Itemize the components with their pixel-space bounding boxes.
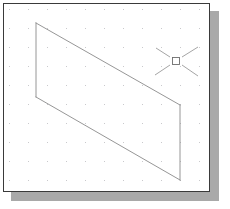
grid-dot — [9, 104, 10, 105]
grid-dot — [123, 9, 124, 10]
grid-dot — [9, 47, 10, 48]
grid-dot — [104, 9, 105, 10]
grid-dot — [199, 142, 200, 143]
grid-dot — [47, 47, 48, 48]
grid-dot — [28, 123, 29, 124]
grid-dot — [180, 66, 181, 67]
grid-dot — [66, 123, 67, 124]
grid-dot — [142, 85, 143, 86]
grid-dot — [47, 180, 48, 181]
grid-dot — [142, 28, 143, 29]
grid-dot — [66, 28, 67, 29]
grid-dot — [66, 161, 67, 162]
grid-dot — [142, 66, 143, 67]
grid-dot — [161, 142, 162, 143]
grid-dot — [104, 161, 105, 162]
grid-dot — [9, 180, 10, 181]
grid-dot — [199, 85, 200, 86]
grid-dot — [161, 47, 162, 48]
grid-dot — [85, 123, 86, 124]
grid-dot — [66, 9, 67, 10]
grid-dot — [66, 66, 67, 67]
grid-dot — [123, 142, 124, 143]
drawing-canvas[interactable] — [4, 4, 209, 191]
cursor-arm-upper-right — [182, 47, 198, 57]
grid-dot — [28, 85, 29, 86]
grid-dot — [199, 9, 200, 10]
shape-layer[interactable] — [36, 23, 180, 180]
grid-dot — [199, 104, 200, 105]
grid-dot — [28, 28, 29, 29]
grid-dot — [9, 142, 10, 143]
grid-dot — [161, 66, 162, 67]
grid-dot — [28, 180, 29, 181]
grid-dot — [66, 180, 67, 181]
grid-dot — [161, 9, 162, 10]
grid-dot — [28, 104, 29, 105]
grid-dot — [199, 28, 200, 29]
grid-dot — [28, 9, 29, 10]
cursor-arm-lower-right — [182, 65, 198, 76]
grid-dot — [199, 47, 200, 48]
grid-dot — [9, 161, 10, 162]
grid-dot — [85, 85, 86, 86]
grid-dot — [142, 142, 143, 143]
bottom-edge[interactable] — [36, 97, 180, 180]
grid-dot — [123, 47, 124, 48]
grid-dot — [199, 66, 200, 67]
grid-dot — [161, 28, 162, 29]
grid-dot — [104, 142, 105, 143]
grid-dot — [104, 28, 105, 29]
grid-dot — [161, 123, 162, 124]
grid-dot — [180, 28, 181, 29]
grid-dot — [180, 85, 181, 86]
canvas-svg[interactable] — [4, 4, 209, 191]
cad-drawing-screen — [0, 0, 230, 209]
top-edge[interactable] — [36, 23, 180, 105]
grid-dot — [28, 161, 29, 162]
grid-dot — [9, 85, 10, 86]
grid-dot — [9, 66, 10, 67]
grid-dot — [47, 66, 48, 67]
grid-dot — [123, 161, 124, 162]
grid-dot — [85, 161, 86, 162]
grid-dot — [142, 161, 143, 162]
grid-dot — [104, 47, 105, 48]
grid-dot — [104, 123, 105, 124]
grid-dot — [180, 47, 181, 48]
grid-dot — [180, 9, 181, 10]
grid-dot — [104, 85, 105, 86]
grid-dot — [9, 123, 10, 124]
grid-dot — [161, 161, 162, 162]
grid-dot — [142, 9, 143, 10]
grid-dot — [142, 104, 143, 105]
grid-dot-layer — [9, 9, 200, 181]
grid-dot — [66, 85, 67, 86]
grid-dot — [161, 85, 162, 86]
cursor-arm-upper-left — [156, 48, 170, 57]
grid-dot — [104, 66, 105, 67]
grid-dot — [123, 180, 124, 181]
grid-dot — [199, 180, 200, 181]
grid-dot — [66, 142, 67, 143]
grid-dot — [123, 104, 124, 105]
grid-dot — [9, 9, 10, 10]
grid-dot — [142, 180, 143, 181]
grid-dot — [85, 28, 86, 29]
grid-dot — [85, 142, 86, 143]
drawing-window — [3, 3, 210, 192]
grid-dot — [28, 66, 29, 67]
grid-dot — [123, 66, 124, 67]
grid-dot — [123, 85, 124, 86]
cursor-crosshair — [155, 47, 198, 76]
grid-dot — [85, 104, 86, 105]
grid-dot — [47, 85, 48, 86]
cursor-pickbox — [173, 58, 180, 65]
grid-dot — [85, 180, 86, 181]
grid-dot — [104, 180, 105, 181]
grid-dot — [28, 142, 29, 143]
grid-dot — [142, 47, 143, 48]
grid-dot — [28, 47, 29, 48]
grid-dot — [85, 47, 86, 48]
grid-dot — [161, 180, 162, 181]
